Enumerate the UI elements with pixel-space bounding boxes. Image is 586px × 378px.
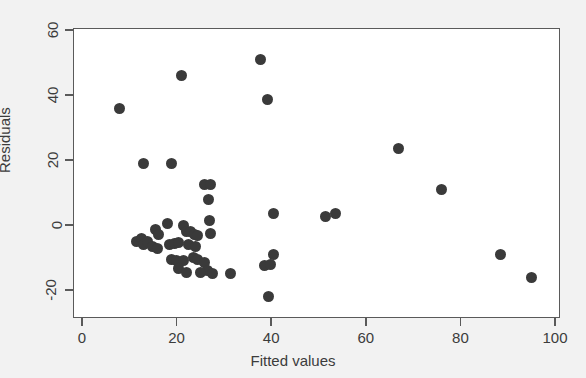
x-tick-label: 0 (78, 329, 86, 346)
y-tick-label: 40 (44, 87, 61, 104)
y-tick-label-text: -20 (42, 279, 59, 301)
x-tick-label: 20 (168, 329, 185, 346)
y-axis-label: Residuals (0, 107, 13, 173)
y-tick-mark (65, 94, 73, 96)
y-tick-label: 20 (44, 152, 61, 169)
y-tick-mark (65, 159, 73, 161)
x-tick-label: 60 (357, 329, 374, 346)
plot-area-frame (73, 28, 560, 318)
scatter-plot-figure: -200204060020406080100 Fitted values Res… (0, 0, 586, 378)
x-tick-mark (365, 318, 367, 326)
x-tick-label: 40 (263, 329, 280, 346)
y-tick-label-text: 40 (44, 87, 61, 104)
x-tick-mark (270, 318, 272, 326)
y-tick-mark (65, 289, 73, 291)
y-tick-mark (65, 29, 73, 31)
y-tick-label: -20 (39, 282, 61, 299)
x-tick-mark (554, 318, 556, 326)
y-tick-label: 60 (44, 22, 61, 39)
x-tick-label: 100 (542, 329, 567, 346)
y-tick-label-text: 60 (44, 22, 61, 39)
y-tick-label-text: 20 (44, 152, 61, 169)
x-tick-mark (460, 318, 462, 326)
y-tick-label: 0 (53, 217, 61, 234)
x-tick-mark (81, 318, 83, 326)
y-tick-mark (65, 224, 73, 226)
x-axis-label: Fitted values (0, 352, 586, 369)
y-tick-label-text: 0 (48, 221, 65, 229)
x-tick-mark (176, 318, 178, 326)
x-tick-label: 80 (452, 329, 469, 346)
